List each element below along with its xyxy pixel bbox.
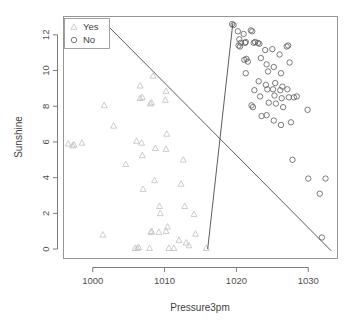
y-tick-label: 10 xyxy=(41,65,52,76)
legend-label-yes: Yes xyxy=(83,21,99,32)
x-axis-label: Pressure3pm xyxy=(170,302,229,313)
y-tick-label: 4 xyxy=(41,175,52,180)
y-axis-label: Sunshine xyxy=(13,116,24,158)
chart-canvas: 024681012 1000101010201030 YesNo Pressur… xyxy=(0,0,363,329)
x-tick-label: 1030 xyxy=(298,275,319,286)
y-tick-label: 8 xyxy=(41,104,52,109)
chart-legend: YesNo xyxy=(65,19,110,49)
y-tick-label: 12 xyxy=(41,30,52,41)
legend-label-no: No xyxy=(83,34,95,45)
x-tick-label: 1000 xyxy=(82,275,103,286)
scatter-plot-figure: 024681012 1000101010201030 YesNo Pressur… xyxy=(0,0,363,329)
y-tick-label: 2 xyxy=(41,211,52,216)
x-tick-label: 1020 xyxy=(226,275,247,286)
y-tick-label: 0 xyxy=(41,246,52,251)
x-tick-label: 1010 xyxy=(154,275,175,286)
y-tick-label: 6 xyxy=(41,139,52,144)
